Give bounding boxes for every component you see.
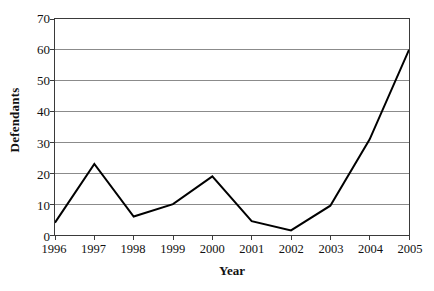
x-tick-label: 1996 — [42, 243, 67, 256]
x-tick-label: 1998 — [121, 243, 146, 256]
y-tick-label: 20 — [37, 167, 50, 180]
x-tick-label: 2005 — [398, 243, 423, 256]
y-tick-label: 60 — [37, 43, 50, 56]
x-tick-label: 2004 — [358, 243, 383, 256]
y-tick-label: 10 — [37, 198, 50, 211]
y-tick-label: 70 — [37, 12, 50, 25]
y-tick-label: 50 — [37, 74, 50, 87]
line-chart-figure: Defendants 010203040506070 1996199719981… — [0, 0, 434, 291]
x-tick-label: 1997 — [81, 243, 106, 256]
x-tick-label: 2002 — [279, 243, 304, 256]
y-tick-label: 0 — [44, 230, 51, 243]
x-tick-label: 2003 — [318, 243, 343, 256]
x-tick-label: 1999 — [160, 243, 185, 256]
plot-area — [54, 18, 410, 236]
x-axis-title: Year — [54, 263, 410, 279]
y-axis-tick-labels: 010203040506070 — [22, 18, 50, 236]
series-defendants-line — [55, 50, 409, 231]
y-tick-label: 30 — [37, 136, 50, 149]
y-axis-title-label: Defendants — [7, 88, 23, 153]
y-tick-label: 40 — [37, 105, 50, 118]
x-axis-tick-labels: 1996199719981999200020012002200320042005 — [54, 243, 410, 261]
data-series-line — [55, 19, 409, 235]
x-tick-label: 2000 — [200, 243, 225, 256]
x-tick-label: 2001 — [239, 243, 264, 256]
